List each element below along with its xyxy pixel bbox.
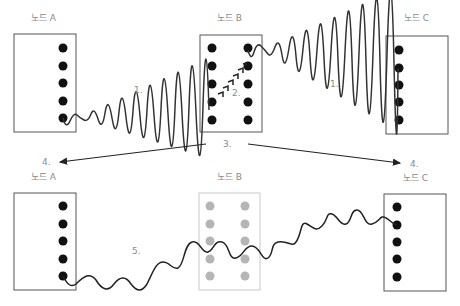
entanglement-link-b-c	[248, 0, 398, 134]
step-3-label: 3.	[223, 139, 232, 149]
top-node-a-label: 노드 A	[31, 13, 57, 23]
classical-arrow-to-a	[60, 144, 206, 162]
step-4-left-label: 4.	[42, 157, 51, 167]
step-1-right-label: 1.	[330, 79, 339, 89]
top-node-c-label: 노드 C	[404, 13, 429, 23]
classical-arrow-to-c	[248, 144, 400, 163]
bottom-row: 노드 A 노드 B 노드 C 5.	[14, 172, 446, 291]
top-node-b-label: 노드 B	[217, 13, 242, 23]
entanglement-link-a-b	[63, 59, 209, 156]
bottom-node-c-label: 노드 C	[403, 173, 428, 183]
step-1-left-label: 1.	[134, 85, 143, 95]
top-row: 노드 A 노드 B 노드 C 1. 1.	[14, 0, 448, 156]
entanglement-swapping-diagram: 노드 A 노드 B 노드 C 1. 1.	[0, 0, 460, 306]
bottom-node-b-label: 노드 B	[217, 172, 242, 182]
step-4-right-label: 4.	[410, 159, 419, 169]
step-2-label: 2.	[232, 88, 241, 98]
bottom-node-a-label: 노드 A	[31, 172, 57, 182]
step-5-label: 5.	[132, 246, 141, 256]
